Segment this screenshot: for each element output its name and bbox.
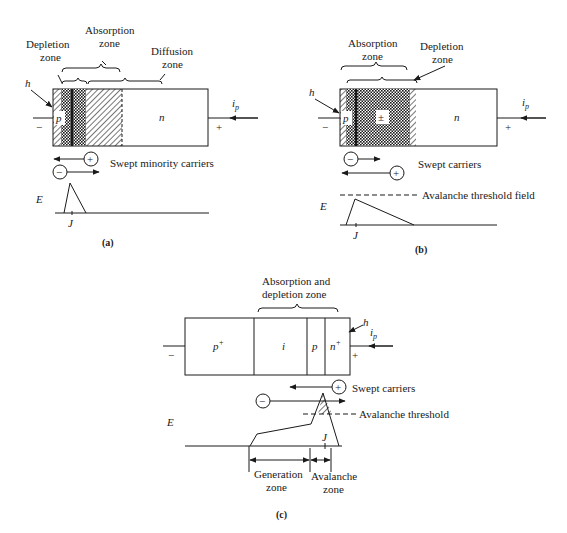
plus-sign-c: + — [352, 349, 358, 361]
j-label-c: J — [322, 431, 328, 443]
e-label-b: E — [319, 200, 327, 212]
caption-a: (a) — [102, 237, 114, 249]
e-label-c: E — [166, 416, 174, 428]
absorption-brace-b — [341, 62, 407, 70]
p-label-b: p — [342, 112, 349, 124]
minus-sign-a: − — [36, 121, 42, 133]
i-label: i — [282, 340, 285, 352]
absorption-zone-label-b-2: zone — [362, 50, 383, 62]
avalanche-zone-label: Avalanche — [311, 470, 357, 482]
abs-dep-label-2: depletion zone — [262, 288, 327, 300]
depletion-region-b — [410, 89, 416, 146]
plus-sign-a: + — [216, 121, 222, 133]
light-arrow-b — [315, 99, 339, 113]
pm-label-b: ± — [378, 111, 384, 123]
panel-a: Depletion zone Absorption zone Diffusion… — [25, 24, 258, 249]
caption-b: (b) — [415, 244, 427, 256]
absorption-zone-label-2: zone — [99, 37, 120, 49]
h-label-a: h — [25, 77, 31, 89]
swept-label-c: Swept carriers — [352, 382, 415, 394]
ip-label-a: ip — [232, 97, 239, 112]
depletion-zone-label: Depletion — [26, 38, 70, 50]
absorption-brace — [62, 64, 120, 72]
electron-minus-c: − — [259, 395, 265, 407]
panel-c: Absorption and depletion zone p+ i p n+ … — [163, 275, 449, 521]
photodiode-diagram: Depletion zone Absorption zone Diffusion… — [0, 0, 567, 533]
panel-b: Absorption zone Depletion zone p ± n h −… — [309, 37, 546, 256]
e-field-profile-b — [346, 199, 414, 225]
electron-minus-b: − — [347, 153, 353, 165]
ip-label-c: ip — [370, 326, 377, 341]
absorption-pointer — [102, 61, 106, 65]
hole-plus-a: + — [87, 153, 93, 165]
absorption-zone-label-b: Absorption — [348, 37, 398, 49]
minus-sign-c: − — [168, 349, 174, 361]
generation-zone-label-2: zone — [266, 481, 287, 493]
minus-sign-b: − — [322, 121, 328, 133]
absorption-region-a — [86, 89, 122, 146]
light-arrow-a — [31, 90, 52, 107]
swept-label-a: Swept minority carriers — [110, 157, 214, 169]
depletion-zone-label-b: Depletion — [420, 40, 464, 52]
swept-label-b: Swept carriers — [418, 158, 481, 170]
depletion-pointer-b — [414, 66, 445, 80]
hole-plus-b: + — [393, 167, 399, 179]
n-label-a: n — [159, 111, 165, 123]
diffusion-pointer — [160, 74, 165, 80]
j-label-b: J — [353, 229, 359, 241]
ip-label-b: ip — [522, 96, 529, 111]
abs-dep-label: Absorption and — [262, 275, 331, 287]
depletion-brace — [62, 78, 87, 84]
abs-dep-brace — [258, 304, 338, 312]
diffusion-brace — [88, 78, 162, 84]
h-label-c: h — [363, 316, 369, 328]
depletion-brace-b — [347, 77, 417, 83]
h-label-b: h — [309, 86, 315, 98]
p-label-a: p — [55, 112, 62, 124]
depletion-pointer — [58, 75, 62, 83]
avalanche-zone-label-2: zone — [323, 483, 344, 495]
hole-plus-c: + — [335, 381, 341, 393]
avalanche-region-hatch — [318, 393, 332, 414]
caption-c: (c) — [276, 509, 287, 521]
j-label-a: J — [68, 217, 74, 229]
absorption-zone-label: Absorption — [85, 24, 135, 36]
e-label-a: E — [35, 193, 43, 205]
diffusion-zone-label: Diffusion — [151, 45, 193, 57]
depletion-zone-label-b-2: zone — [432, 53, 453, 65]
light-arrow-c — [349, 325, 363, 332]
threshold-label-b: Avalanche threshold field — [422, 189, 535, 201]
e-field-profile-a — [64, 183, 86, 213]
plus-sign-b: + — [505, 121, 511, 133]
threshold-label-c: Avalanche threshold — [359, 408, 449, 420]
diffusion-zone-label-2: zone — [162, 58, 183, 70]
depletion-zone-label-2: zone — [40, 51, 61, 63]
electron-minus-a: − — [56, 166, 62, 178]
p-label-c: p — [311, 340, 318, 352]
generation-zone-label: Generation — [254, 468, 303, 480]
n-label-b: n — [454, 111, 460, 123]
